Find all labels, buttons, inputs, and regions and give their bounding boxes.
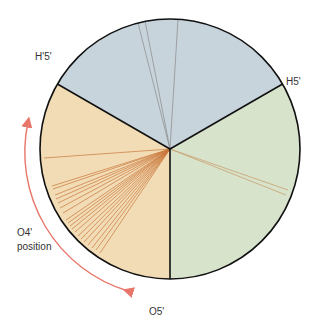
label-o4-line1: O4' xyxy=(17,227,32,239)
conformation-wheel-diagram xyxy=(0,0,318,327)
label-h5-prime-prime: H'5' xyxy=(35,51,52,63)
label-o5-prime: O5' xyxy=(149,306,164,318)
label-h5-prime: H5' xyxy=(286,76,301,88)
label-o4-line2: position xyxy=(17,241,51,253)
